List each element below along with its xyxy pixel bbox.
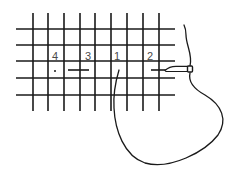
stitch-step-label-2: 2 bbox=[147, 50, 153, 62]
stitch-step-label-4: 4 bbox=[52, 50, 58, 62]
stitch-point-4-dot bbox=[54, 70, 56, 72]
stitch-step-label-3: 3 bbox=[85, 50, 91, 62]
thread-loop bbox=[114, 70, 223, 165]
needle-eye-icon bbox=[188, 66, 193, 72]
stitch-step-label-1: 1 bbox=[114, 50, 120, 62]
stitch-diagram: 4312 bbox=[0, 0, 234, 174]
needle-icon bbox=[165, 66, 188, 71]
thread-tail bbox=[184, 25, 191, 66]
canvas-grid bbox=[16, 13, 175, 111]
